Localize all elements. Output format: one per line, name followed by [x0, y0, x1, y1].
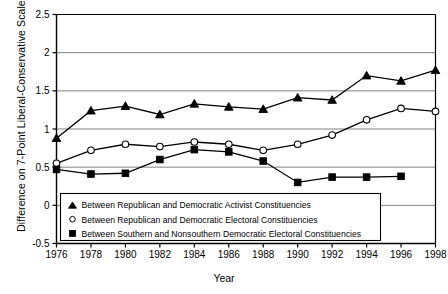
data-point-square [191, 146, 198, 153]
data-point-square [53, 166, 60, 173]
data-point-square [363, 174, 370, 181]
data-point-circle [363, 117, 370, 124]
y-tick-label: 2.5 [36, 9, 50, 20]
data-point-circle [329, 132, 336, 139]
data-point-circle [398, 105, 405, 112]
series-2 [53, 105, 439, 167]
data-series-layer [52, 66, 440, 186]
x-tick-label: 1990 [287, 249, 310, 260]
x-tick-label: 1988 [252, 249, 275, 260]
legend-entry-1: Between Republican and Democratic Activi… [69, 200, 311, 210]
x-tick-label: 1978 [80, 249, 103, 260]
data-point-circle [432, 108, 439, 115]
data-point-circle [191, 139, 198, 146]
plot-area: -0.500.511.522.5 19761978198019821984198… [0, 0, 448, 294]
y-tick-label: 0 [44, 200, 50, 211]
data-point-triangle [362, 71, 371, 79]
x-tick-label: 1984 [183, 249, 206, 260]
data-point-circle [122, 141, 129, 148]
x-tick-label: 1986 [218, 249, 241, 260]
series-line [57, 70, 436, 138]
x-tick-label: 1982 [149, 249, 172, 260]
legend-marker-square [70, 230, 76, 236]
data-point-circle [88, 147, 95, 154]
data-point-triangle [190, 100, 199, 108]
data-point-circle [53, 160, 60, 167]
x-tick-labels: 1976197819801982198419861988199019921994… [45, 249, 447, 260]
y-tick-label: 1.5 [36, 85, 50, 96]
data-point-triangle [293, 93, 302, 101]
x-tick-label: 1976 [45, 249, 68, 260]
x-tick-label: 1992 [321, 249, 344, 260]
data-point-square [122, 170, 129, 177]
x-tick-label: 1994 [355, 249, 378, 260]
data-point-circle [294, 141, 301, 148]
x-tick-label: 1996 [390, 249, 413, 260]
data-point-square [88, 171, 95, 178]
y-tick-label: 1 [44, 124, 50, 135]
legend-entry-2: Between Republican and Democratic Electo… [70, 215, 318, 225]
data-point-square [225, 149, 232, 156]
y-tick-label: 0.5 [36, 162, 50, 173]
series-1 [52, 66, 440, 142]
legend-marker-circle [70, 216, 76, 222]
y-tick-labels: -0.500.511.522.5 [32, 9, 50, 249]
series-line [57, 108, 436, 163]
data-point-triangle [431, 66, 440, 74]
legend-label: Between Republican and Democratic Activi… [82, 200, 311, 210]
data-point-square [329, 174, 336, 181]
legend-label: Between Republican and Democratic Electo… [82, 215, 318, 225]
legend-label: Between Southern and Nonsouthern Democra… [82, 229, 361, 239]
chart-legend: Between Republican and Democratic Activi… [61, 194, 381, 241]
chart-figure: Difference on 7-Point Liberal-Conservati… [0, 0, 448, 294]
y-tick-label: 2 [44, 47, 50, 58]
data-point-circle [260, 147, 267, 154]
data-point-triangle [121, 102, 130, 110]
data-point-square [294, 179, 301, 186]
series-3 [53, 146, 404, 185]
data-point-circle [157, 143, 164, 150]
data-point-square [398, 173, 405, 180]
x-tick-label: 1980 [114, 249, 137, 260]
y-tick-label: -0.5 [32, 238, 50, 249]
x-tick-label: 1998 [424, 249, 447, 260]
legend-entry-3: Between Southern and Nonsouthern Democra… [70, 229, 361, 239]
data-point-square [260, 158, 267, 165]
data-point-circle [225, 141, 232, 148]
data-point-square [157, 156, 164, 163]
